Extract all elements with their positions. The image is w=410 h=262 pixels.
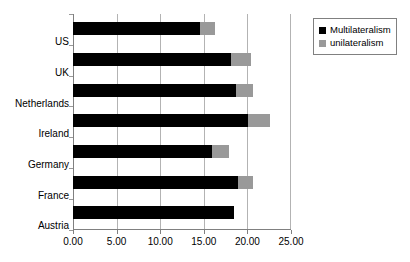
bar-row (73, 145, 229, 158)
x-axis-tick-5 (291, 230, 292, 234)
legend-label-multilateralism: Multilateralism (330, 24, 391, 36)
y-axis-label-6: Austria (0, 220, 69, 232)
bar-segment-unilateralism (200, 22, 215, 35)
x-axis-tick-1 (117, 230, 118, 234)
bar-segment-multilateralism (73, 84, 236, 97)
x-axis-tick-0 (73, 230, 74, 234)
bar-segment-multilateralism (73, 53, 231, 66)
y-axis-label-3: Ireland (0, 128, 69, 140)
bar-segment-multilateralism (73, 114, 248, 127)
bar-row (73, 114, 270, 127)
bar-segment-unilateralism (248, 114, 270, 127)
x-axis-tick-label-3: 15.00 (182, 236, 226, 248)
bar-row (73, 53, 251, 66)
y-axis-label-4: Germany (0, 159, 69, 171)
x-axis-tick-label-5: 25.00 (269, 236, 313, 248)
gridline-25 (290, 14, 291, 230)
bar-row (73, 176, 253, 189)
y-axis-category-labels: US UK Netherlands Ireland Germany France… (0, 14, 69, 230)
bar-row (73, 84, 253, 97)
bar-segment-unilateralism (236, 84, 253, 97)
legend-item-multilateralism: Multilateralism (319, 24, 391, 36)
stacked-bar-chart: US UK Netherlands Ireland Germany France… (0, 0, 410, 262)
bar-row (73, 206, 234, 219)
bar-segment-unilateralism (212, 145, 229, 158)
x-axis-tick-3 (204, 230, 205, 234)
legend-item-unilateralism: unilateralism (319, 37, 391, 49)
y-axis-label-5: France (0, 190, 69, 202)
bar-segment-unilateralism (231, 53, 251, 66)
legend-label-unilateralism: unilateralism (330, 37, 383, 49)
x-axis-tick-2 (160, 230, 161, 234)
x-axis-line (73, 229, 291, 230)
y-axis-label-2: Netherlands (0, 98, 69, 110)
plot-area (73, 14, 291, 230)
bar-segment-multilateralism (73, 22, 200, 35)
x-axis-tick-label-0: 0.00 (51, 236, 95, 248)
bar-segment-multilateralism (73, 145, 212, 158)
bar-row (73, 22, 215, 35)
chart-legend: Multilateralism unilateralism (313, 18, 397, 55)
x-axis-tick-label-4: 20.00 (225, 236, 269, 248)
x-axis-tick-4 (247, 230, 248, 234)
x-axis-tick-label-1: 5.00 (95, 236, 139, 248)
y-axis-label-1: UK (0, 67, 69, 79)
legend-swatch-icon (319, 27, 326, 34)
bar-segment-multilateralism (73, 206, 234, 219)
legend-swatch-icon (319, 40, 326, 47)
bar-segment-multilateralism (73, 176, 238, 189)
bar-segment-unilateralism (238, 176, 253, 189)
x-axis-tick-label-2: 10.00 (138, 236, 182, 248)
y-axis-label-0: US (0, 36, 69, 48)
